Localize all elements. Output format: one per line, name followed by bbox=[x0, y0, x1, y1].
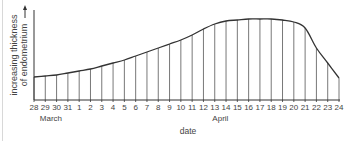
x-tick-label: 3 bbox=[100, 103, 104, 112]
x-tick-label: 20 bbox=[289, 103, 298, 112]
x-tick-label: 12 bbox=[199, 103, 208, 112]
x-tick-label: 14 bbox=[222, 103, 231, 112]
month-label: March bbox=[40, 114, 62, 123]
x-tick-label: 8 bbox=[156, 103, 160, 112]
x-tick-label: 2 bbox=[88, 103, 92, 112]
x-tick-label: 5 bbox=[122, 103, 126, 112]
x-tick-label: 15 bbox=[233, 103, 242, 112]
month-label: April bbox=[212, 114, 228, 123]
x-tick-label: 30 bbox=[52, 103, 61, 112]
x-axis-label: date bbox=[180, 126, 197, 136]
y-axis-label-line-2: of endometrium bbox=[19, 14, 29, 95]
vertical-drop-lines bbox=[34, 19, 339, 100]
x-tick-label: 17 bbox=[255, 103, 264, 112]
x-tick-label: 31 bbox=[63, 103, 72, 112]
x-tick-label: 23 bbox=[323, 103, 332, 112]
x-tick-label: 21 bbox=[301, 103, 310, 112]
y-axis-label: increasing thickness of endometrium bbox=[5, 10, 33, 100]
x-tick-label: 1 bbox=[77, 103, 81, 112]
x-tick-label: 29 bbox=[41, 103, 50, 112]
x-tick-label: 9 bbox=[167, 103, 171, 112]
x-tick-label: 11 bbox=[188, 103, 196, 112]
x-tick-label: 16 bbox=[244, 103, 253, 112]
x-tick-label: 10 bbox=[176, 103, 185, 112]
x-tick-label: 24 bbox=[335, 103, 344, 112]
x-tick-label: 22 bbox=[312, 103, 321, 112]
x-tick-label: 7 bbox=[145, 103, 149, 112]
y-axis-label-line-1: increasing thickness bbox=[9, 14, 19, 95]
x-tick-label: 13 bbox=[210, 103, 219, 112]
x-tick-label: 6 bbox=[133, 103, 137, 112]
thickness-curve bbox=[34, 19, 339, 78]
x-tick-label: 18 bbox=[267, 103, 276, 112]
x-tick-label: 4 bbox=[111, 103, 115, 112]
x-tick-label: 19 bbox=[278, 103, 287, 112]
x-tick-label: 28 bbox=[30, 103, 39, 112]
